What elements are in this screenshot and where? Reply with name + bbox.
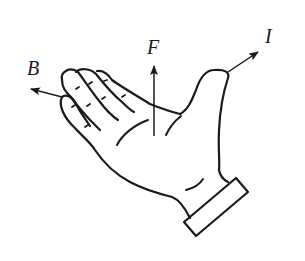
palm-line-2	[166, 116, 181, 135]
hand-outline	[61, 97, 190, 218]
force-label: F	[147, 37, 159, 57]
left-hand-rule-diagram: B F I	[0, 0, 305, 261]
index-finger	[97, 71, 180, 114]
pinky-lower	[62, 96, 90, 126]
middle-finger	[76, 69, 134, 112]
magnetic-field-label: B	[27, 58, 39, 78]
current-label: I	[265, 26, 272, 46]
palm-line-1	[117, 120, 148, 145]
pinky-finger	[62, 80, 100, 130]
thumb-outline	[180, 70, 228, 182]
field-arrow	[31, 89, 62, 97]
current-arrow	[228, 52, 258, 72]
wrist-crease	[186, 179, 203, 190]
